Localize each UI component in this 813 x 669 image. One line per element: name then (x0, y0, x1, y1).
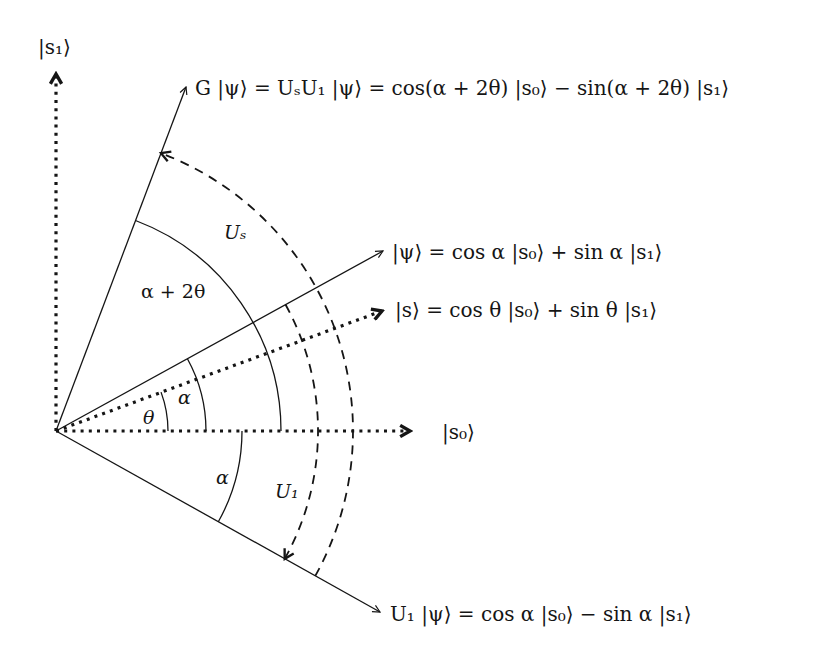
U1-label: U₁ (275, 482, 299, 501)
U1-psi-label: U₁ |ψ⟩ = cos α |s₀⟩ − sin α |s₁⟩ (390, 604, 692, 624)
Us-label: Uₛ (224, 223, 246, 242)
theta-label: θ (143, 408, 154, 427)
s0-axis-label: |s₀⟩ (442, 422, 475, 442)
psi-vector (56, 251, 383, 431)
theta-arc (161, 392, 168, 431)
alpha-plus-2theta-arc (136, 221, 281, 431)
s1-axis-label: |s₁⟩ (38, 37, 71, 57)
alpha-plus-2theta-label: α + 2θ (141, 282, 205, 301)
grover-geometry-diagram (0, 0, 813, 669)
G-psi-label: G |ψ⟩ = UₛU₁ |ψ⟩ = cos(α + 2θ) |s₀⟩ − si… (195, 78, 729, 98)
psi-label: |ψ⟩ = cos α |s₀⟩ + sin α |s₁⟩ (392, 242, 662, 262)
alpha-upper-label: α (178, 388, 191, 407)
s-vector (56, 311, 382, 431)
G-psi-vector (56, 87, 186, 431)
s-label: |s⟩ = cos θ |s₀⟩ + sin θ |s₁⟩ (395, 300, 657, 320)
alpha-lower-label: α (216, 468, 229, 487)
